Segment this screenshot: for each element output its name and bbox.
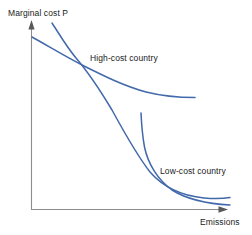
y-axis-arrowhead xyxy=(28,20,34,30)
curve-high-cost-country xyxy=(32,37,195,98)
y-axis-label: Marginal cost P xyxy=(8,9,68,18)
x-axis-arrowhead xyxy=(219,206,229,212)
curve-low-cost-branch xyxy=(141,113,230,205)
curve-annotation-high-cost-country: High-cost country xyxy=(90,54,158,63)
curve-annotation-low-cost-country: Low-cost country xyxy=(160,167,226,176)
chart-plot-area xyxy=(0,0,252,235)
x-axis-label: Emissions xyxy=(200,218,240,227)
chart-figure: Marginal cost P Emissions High-cost coun… xyxy=(0,0,252,235)
